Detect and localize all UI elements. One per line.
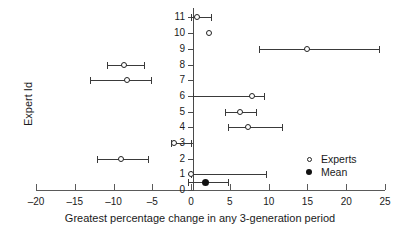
legend-label-mean: Mean (321, 166, 347, 178)
mean-data-point (202, 179, 209, 186)
expert-data-point (121, 62, 127, 68)
y-tick-mark (188, 112, 193, 113)
error-bar-cap (193, 93, 194, 100)
y-tick-mark (188, 80, 193, 81)
x-tick-label: –15 (55, 196, 95, 207)
y-tick-label: 6 (169, 90, 185, 101)
error-bar (90, 80, 151, 81)
x-tick-label: 5 (210, 196, 250, 207)
y-tick-label: 1 (169, 168, 185, 179)
y-tick-mark (188, 65, 193, 66)
error-bar-cap (282, 124, 283, 131)
x-tick-mark (114, 184, 115, 190)
y-tick-mark (188, 49, 193, 50)
y-axis-label: Expert Id (22, 34, 34, 174)
error-bar-cap (256, 109, 257, 116)
expert-id-error-bar-chart: Expert Id –20–15–10–50510152025 01234567… (0, 0, 400, 240)
error-bar-cap (266, 171, 267, 178)
legend-item-experts: Experts (306, 153, 357, 166)
error-bar-cap (107, 62, 108, 69)
x-tick-label: 10 (249, 196, 289, 207)
error-bar-cap (225, 109, 226, 116)
x-tick-mark (230, 184, 231, 190)
x-tick-mark (152, 184, 153, 190)
x-tick-mark (75, 184, 76, 190)
x-axis-label: Greatest percentage change in any 3-gene… (0, 212, 400, 224)
error-bar-cap (264, 93, 265, 100)
y-tick-mark (188, 33, 193, 34)
x-tick-mark (385, 184, 386, 190)
error-bar-cap (228, 124, 229, 131)
error-bar-cap (97, 156, 98, 163)
y-tick-label: 2 (169, 153, 185, 164)
expert-data-point (171, 140, 177, 146)
legend: Experts Mean (306, 153, 357, 179)
error-bar-cap (191, 140, 192, 147)
expert-data-point (237, 109, 243, 115)
x-tick-mark (36, 184, 37, 190)
x-tick-label: 0 (171, 196, 211, 207)
x-tick-label: 25 (365, 196, 400, 207)
y-tick-label: 8 (169, 59, 185, 70)
error-bar (228, 127, 282, 128)
y-tick-mark (188, 190, 193, 191)
x-tick-mark (307, 184, 308, 190)
error-bar-cap (144, 62, 145, 69)
filled-circle-icon (306, 169, 312, 175)
error-bar-cap (191, 14, 192, 21)
legend-item-mean: Mean (306, 166, 357, 179)
y-tick-mark (188, 127, 193, 128)
x-tick-label: 15 (287, 196, 327, 207)
y-tick-label: 10 (169, 27, 185, 38)
expert-data-point (249, 93, 255, 99)
error-bar-cap (259, 46, 260, 53)
error-bar (259, 49, 378, 50)
y-tick-label: 0 (169, 184, 185, 195)
y-axis-label-container: Expert Id (14, 20, 28, 180)
expert-data-point (124, 77, 130, 83)
y-tick-label: 5 (169, 106, 185, 117)
x-tick-label: 20 (326, 196, 366, 207)
error-bar-cap (148, 156, 149, 163)
expert-data-point (304, 46, 310, 52)
x-tick-label: –20 (16, 196, 56, 207)
x-axis-line (36, 190, 385, 191)
expert-data-point (206, 30, 212, 36)
expert-data-point (118, 156, 124, 162)
x-tick-label: –5 (132, 196, 172, 207)
open-circle-icon (307, 157, 312, 162)
y-tick-label: 11 (169, 11, 185, 22)
y-tick-label: 4 (169, 121, 185, 132)
legend-label-experts: Experts (321, 153, 357, 165)
error-bar-cap (151, 77, 152, 84)
x-tick-label: –10 (94, 196, 134, 207)
error-bar-cap (90, 77, 91, 84)
error-bar-cap (228, 179, 229, 186)
y-tick-mark (188, 159, 193, 160)
error-bar-cap (188, 179, 189, 186)
expert-data-point (245, 124, 251, 130)
y-tick-label: 9 (169, 43, 185, 54)
error-bar-cap (211, 14, 212, 21)
error-bar (191, 174, 266, 175)
expert-data-point (194, 14, 200, 20)
y-tick-label: 7 (169, 74, 185, 85)
error-bar-cap (379, 46, 380, 53)
x-tick-mark (269, 184, 270, 190)
x-tick-mark (346, 184, 347, 190)
